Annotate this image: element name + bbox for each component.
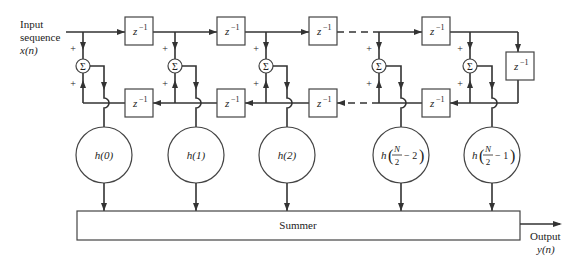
svg-text:2: 2	[486, 157, 491, 167]
svg-text:+: +	[457, 43, 463, 54]
tap-stage-1: Σ + +	[162, 32, 201, 127]
svg-text:+: +	[70, 78, 76, 89]
svg-text:−1: −1	[436, 95, 445, 104]
svg-text:): )	[419, 147, 424, 165]
svg-text:− 2: − 2	[404, 150, 417, 161]
svg-text:Σ: Σ	[80, 61, 86, 72]
svg-text:N: N	[393, 144, 401, 154]
tap-stage-0: Σ + +	[70, 32, 109, 127]
svg-text:Σ: Σ	[172, 61, 178, 72]
svg-text:): )	[510, 147, 515, 165]
svg-text:+: +	[253, 78, 259, 89]
svg-text:+: +	[70, 43, 76, 54]
svg-text:(: (	[479, 147, 484, 165]
tap-stage-2: Σ + +	[253, 32, 292, 127]
svg-text:+: +	[162, 78, 168, 89]
svg-text:z: z	[316, 25, 322, 37]
svg-text:z: z	[429, 97, 435, 109]
input-signal-label: x(n)	[19, 44, 38, 57]
svg-text:+: +	[162, 43, 168, 54]
svg-text:−1: −1	[139, 95, 148, 104]
svg-text:−1: −1	[231, 23, 240, 32]
svg-text:− 1: − 1	[495, 150, 508, 161]
svg-text:+: +	[366, 43, 372, 54]
input-label-line2: sequence	[20, 31, 60, 43]
svg-text:h(2): h(2)	[278, 149, 297, 162]
svg-text:z: z	[132, 97, 138, 109]
svg-text:−1: −1	[231, 95, 240, 104]
svg-text:z: z	[316, 97, 322, 109]
svg-text:h(1): h(1)	[187, 149, 206, 162]
svg-text:z: z	[429, 25, 435, 37]
svg-text:+: +	[457, 78, 463, 89]
svg-text:−1: −1	[139, 23, 148, 32]
coef-to-summer-arrows	[101, 183, 495, 211]
svg-text:2: 2	[395, 157, 400, 167]
svg-text:(: (	[388, 147, 393, 165]
output-label: Output	[530, 230, 561, 242]
svg-text:−1: −1	[323, 95, 332, 104]
svg-text:−1: −1	[520, 58, 529, 67]
input-label-line1: Input	[20, 18, 43, 30]
svg-text:h: h	[381, 149, 387, 161]
svg-text:z: z	[224, 25, 230, 37]
svg-text:h: h	[472, 149, 478, 161]
svg-text:N: N	[484, 144, 492, 154]
output-arrow-icon	[553, 221, 562, 227]
coefficient-multipliers: h(0) h(1) h(2) h ( N 2 − 2 ) h ( N 2 − 1…	[76, 127, 520, 183]
svg-text:−1: −1	[323, 23, 332, 32]
svg-text:+: +	[366, 78, 372, 89]
svg-text:z: z	[513, 60, 519, 72]
svg-text:Σ: Σ	[467, 61, 473, 72]
svg-text:h(0): h(0)	[95, 149, 114, 162]
tap-stage-3: Σ + +	[366, 32, 406, 127]
svg-text:+: +	[253, 43, 259, 54]
svg-text:z: z	[132, 25, 138, 37]
svg-text:−1: −1	[436, 23, 445, 32]
fir-linear-phase-diagram: Input sequence x(n)	[0, 0, 579, 268]
svg-text:Σ: Σ	[376, 61, 382, 72]
tap-stage-4: Σ + +	[457, 32, 497, 127]
svg-text:z: z	[224, 97, 230, 109]
summer-label: Summer	[279, 219, 317, 231]
svg-text:Σ: Σ	[263, 61, 269, 72]
output-signal-label: y(n)	[536, 243, 555, 256]
